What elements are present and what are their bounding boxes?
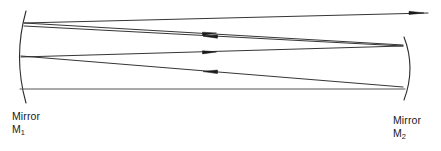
mirror-m1-label: Mirror M1	[12, 110, 40, 135]
mirror-m1-label-name: Mirror	[12, 110, 40, 123]
mirror-m2-symbol-letter: M	[393, 127, 402, 139]
mirror-m2-label-name: Mirror	[393, 114, 421, 127]
ray-diagram-figure: Mirror M1 Mirror M2	[0, 0, 441, 151]
mirror-m2-label-symbol: M2	[393, 127, 421, 140]
mirror-m1-symbol-letter: M	[12, 123, 21, 135]
mirror-m2-label: Mirror M2	[393, 114, 421, 139]
mirror-m1-label-symbol: M1	[12, 123, 40, 136]
mirror-m1-symbol-subscript: 1	[21, 128, 25, 137]
mirror-m2-symbol-subscript: 2	[402, 132, 406, 141]
optical-cavity-diagram	[0, 0, 441, 151]
diagram-background	[0, 0, 441, 151]
